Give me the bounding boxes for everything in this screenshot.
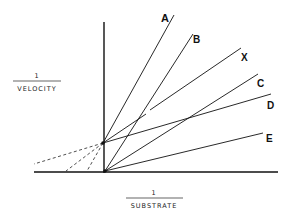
line-a [103,15,174,143]
dashed-extrapolations [34,143,103,171]
x-axis-label-denominator: SUBSTRATE [131,202,178,210]
label-a: A [161,12,169,24]
intercept-point-origin [103,169,107,173]
line-d [103,94,271,143]
y-axis-label-numerator: 1 [34,72,39,80]
line-b [105,34,193,171]
kinetics-plot: A B X C D E 1 VELOCITY 1 SUBSTRATE [0,0,293,221]
label-b: B [193,34,200,45]
label-c: C [257,78,264,89]
line-e [105,133,263,171]
y-axis-label-denominator: VELOCITY [17,85,56,93]
intercept-point-upper [101,141,105,145]
label-x: X [241,52,248,63]
x-axis-label-numerator: 1 [151,189,156,197]
line-x-lower [103,114,146,143]
label-d: D [267,100,274,111]
label-e: E [266,133,273,144]
